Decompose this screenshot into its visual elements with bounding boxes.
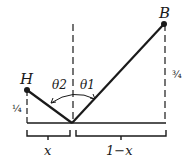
bracket-1-minus-x — [76, 130, 166, 140]
label-theta2: θ2 — [52, 78, 67, 92]
bracket-x — [27, 130, 70, 140]
label-h-height: ¼ — [12, 103, 22, 114]
label-1-minus-x: 1−x — [106, 143, 133, 158]
label-b-height: ¾ — [172, 69, 182, 80]
label-x: x — [44, 143, 52, 158]
label-theta1: θ1 — [80, 78, 95, 92]
ray-reflection-to-b — [72, 24, 164, 123]
label-h: H — [19, 70, 34, 88]
label-b: B — [158, 4, 170, 22]
reflection-diagram: H B θ2 θ1 ¼ ¾ x 1−x — [0, 0, 188, 162]
ray-h-to-reflection — [27, 90, 72, 123]
arc-arrowhead-right — [90, 94, 95, 99]
